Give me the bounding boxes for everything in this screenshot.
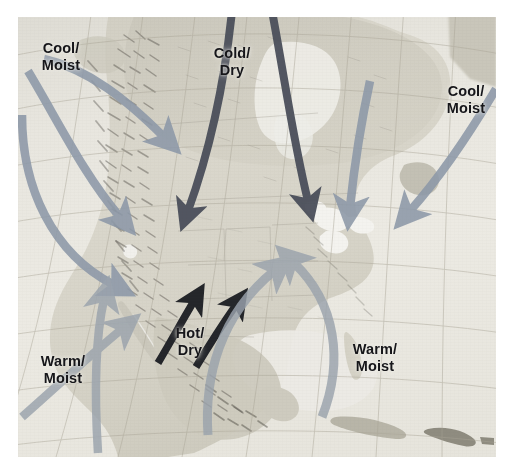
paper-texture-overlay: [18, 17, 496, 457]
relief-map-plate: Cool/ Moist Cold/ Dry Cool/ Moist Hot/ D…: [18, 17, 496, 457]
air-mass-map-figure: Cool/ Moist Cold/ Dry Cool/ Moist Hot/ D…: [0, 0, 509, 473]
